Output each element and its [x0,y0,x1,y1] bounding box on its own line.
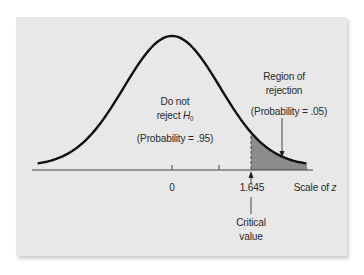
axis-label-scale-of-z: Scale of z [287,180,343,194]
tick-label-zero: 0 [163,180,181,194]
rejection-probability-label: (Probability = .05) [241,104,336,118]
do-not-reject-label: Do not reject H0 [144,94,206,126]
region-of-rejection-label: Region of rejection [256,69,312,97]
center-probability-label: (Probability = .95) [128,131,221,145]
critical-pointer-arrowhead [249,171,254,178]
critical-value-label: Critical value [229,215,273,243]
tick-label-critical: 1.645 [236,180,268,194]
rejection-region-shade [251,132,307,170]
